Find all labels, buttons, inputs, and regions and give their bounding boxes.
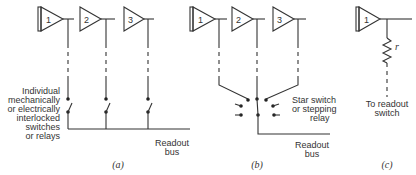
switch-3-icon xyxy=(146,97,152,129)
switch-2-icon xyxy=(104,97,110,129)
diagram-canvas: 1 2 3 xyxy=(0,0,416,175)
amplifier-2-icon: 2 xyxy=(232,7,265,31)
panel-b: 1 2 3 xyxy=(190,7,337,171)
resistor-label: r xyxy=(395,41,399,52)
amplifier-3-icon: 3 xyxy=(273,7,306,31)
bus-label-b: Readout bus xyxy=(295,140,330,159)
panel-a: 1 2 3 xyxy=(7,7,190,171)
amplifier-2-icon: 2 xyxy=(80,7,115,31)
caption-a: (a) xyxy=(112,159,124,171)
caption-c: (c) xyxy=(381,159,393,171)
amplifier-3-icon: 3 xyxy=(124,7,154,31)
star-switch-icon xyxy=(235,97,280,117)
switch-label-b: Star switch or stepping relay xyxy=(292,95,337,123)
output-label-c: To readout switch xyxy=(366,99,409,118)
amplifier-1-icon: 1 xyxy=(38,7,74,31)
svg-text:or relays: or relays xyxy=(25,131,60,141)
svg-text:1: 1 xyxy=(198,15,203,25)
switch-label-a: Individual mechanically or electrically … xyxy=(7,86,60,141)
switch-1-icon xyxy=(66,97,72,129)
svg-text:switch: switch xyxy=(374,108,399,118)
bus-label-a: Readout bus xyxy=(155,138,190,157)
svg-text:1: 1 xyxy=(364,15,369,25)
svg-text:3: 3 xyxy=(128,15,133,25)
amplifier-1-icon: 1 xyxy=(190,7,227,31)
svg-text:bus: bus xyxy=(165,147,180,157)
svg-text:1: 1 xyxy=(46,15,51,25)
svg-text:bus: bus xyxy=(305,149,320,159)
resistor-icon xyxy=(383,38,391,63)
panel-c: 1 r To readout switch (c) xyxy=(356,7,412,171)
svg-text:relay: relay xyxy=(310,113,330,123)
svg-text:2: 2 xyxy=(236,15,241,25)
svg-text:3: 3 xyxy=(277,15,282,25)
svg-text:2: 2 xyxy=(84,15,89,25)
amplifier-1-icon: 1 xyxy=(356,7,412,31)
caption-b: (b) xyxy=(251,159,263,171)
